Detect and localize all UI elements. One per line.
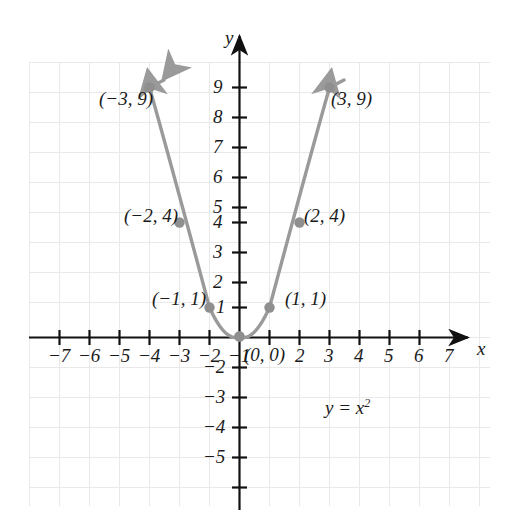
x-tick-label-6: 6 bbox=[414, 345, 424, 367]
data-point bbox=[264, 302, 274, 312]
point-label-neg3-9: (−3, 9) bbox=[99, 88, 153, 110]
y-tick-label-3: 3 bbox=[213, 241, 223, 263]
y-tick-label-1: 1 bbox=[216, 296, 226, 318]
y-tick-label-4: 4 bbox=[213, 211, 223, 233]
point-label-neg1-1: (−1, 1) bbox=[152, 288, 206, 310]
equation-exponent: 2 bbox=[364, 396, 370, 410]
x-tick-label-5: 5 bbox=[384, 345, 394, 367]
point-label-3-9: (3, 9) bbox=[331, 88, 372, 110]
equation-annotation: y = x2 bbox=[325, 396, 370, 419]
point-label-2-4: (2, 4) bbox=[304, 205, 345, 227]
y-tick-label-neg3: −3 bbox=[203, 386, 225, 408]
x-tick-label-4: 4 bbox=[354, 345, 364, 367]
data-point bbox=[234, 331, 245, 342]
x-tick-label-neg4: −4 bbox=[138, 345, 160, 367]
grid-lines bbox=[29, 62, 490, 506]
y-tick-label-neg4: −4 bbox=[203, 416, 225, 438]
x-axis-label: x bbox=[477, 338, 485, 360]
y-axis-label: y bbox=[225, 27, 233, 49]
x-tick-label-neg7: −7 bbox=[48, 345, 70, 367]
x-tick-label-neg6: −6 bbox=[78, 345, 100, 367]
x-tick-label-neg5: −5 bbox=[108, 345, 130, 367]
equation-base: y = x bbox=[325, 397, 364, 418]
x-tick-label-2: 2 bbox=[295, 345, 305, 367]
coordinate-plane-svg bbox=[0, 0, 514, 524]
y-tick-label-7: 7 bbox=[213, 136, 223, 158]
y-tick-label-9: 9 bbox=[213, 76, 223, 98]
x-tick-label-neg2: −2 bbox=[198, 345, 220, 367]
y-tick-label-8: 8 bbox=[213, 106, 223, 128]
graph-figure: y x 9 8 7 6 5 4 3 2 1 −2 −3 −4 −5 −7 −6 … bbox=[0, 0, 514, 524]
x-tick-label-3: 3 bbox=[324, 345, 334, 367]
x-tick-label-7: 7 bbox=[444, 345, 454, 367]
point-label-neg2-4: (−2, 4) bbox=[124, 205, 178, 227]
x-tick-label-neg3: −3 bbox=[168, 345, 190, 367]
y-tick-label-neg5: −5 bbox=[203, 446, 225, 468]
y-tick-label-6: 6 bbox=[213, 166, 223, 188]
y-tick-label-2: 2 bbox=[213, 271, 223, 293]
point-label-1-1: (1, 1) bbox=[285, 288, 326, 310]
point-label-0-0: (0, 0) bbox=[244, 344, 285, 366]
